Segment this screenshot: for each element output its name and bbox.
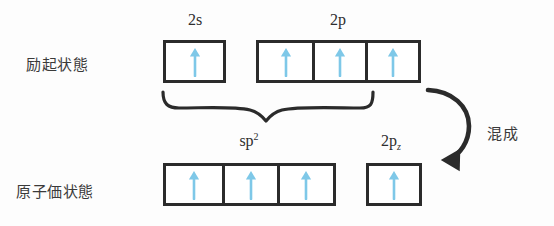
orbital-label-sp2-base: sp [239, 132, 253, 149]
up-arrow-icon [188, 47, 201, 77]
orbital-label-2pz-base: 2p [381, 132, 397, 149]
orbital-box-sp2-1[interactable] [166, 166, 222, 203]
orbital-box-2p-2[interactable] [312, 43, 365, 80]
orbital-label-2pz-subscript: z [397, 141, 401, 152]
orbital-box-group-2s [163, 40, 226, 83]
curved-arrow-icon [428, 90, 469, 160]
orbital-box-2pz-1[interactable] [369, 166, 419, 203]
hybridization-diagram: 励起状態 原子価状態 混成 2s 2p sp2 2pz [0, 0, 554, 226]
annotation-hybridization: 混成 [487, 122, 518, 143]
orbital-label-2pz: 2pz [370, 132, 412, 150]
up-arrow-icon [388, 170, 401, 200]
up-arrow-icon [387, 47, 400, 77]
up-arrow-icon [334, 47, 347, 77]
curly-brace-icon [163, 92, 373, 121]
orbital-box-group-sp2 [163, 163, 336, 206]
orbital-label-2s: 2s [178, 11, 212, 29]
orbital-box-2p-3[interactable] [365, 43, 418, 80]
orbital-box-group-2p [256, 40, 421, 83]
orbital-box-group-2pz [366, 163, 422, 206]
curved-arrow-head [440, 143, 469, 171]
orbital-box-2s-1[interactable] [166, 43, 223, 80]
up-arrow-icon [279, 47, 292, 77]
up-arrow-icon [187, 170, 200, 200]
up-arrow-icon [300, 170, 313, 200]
orbital-box-2p-1[interactable] [259, 43, 312, 80]
orbital-label-sp2-superscript: 2 [254, 131, 259, 142]
row-label-excited-state: 励起状態 [26, 53, 88, 74]
orbital-box-sp2-3[interactable] [277, 166, 333, 203]
up-arrow-icon [244, 170, 257, 200]
orbital-box-sp2-2[interactable] [222, 166, 278, 203]
orbital-label-sp2: sp2 [228, 132, 270, 150]
orbital-label-2p: 2p [320, 11, 356, 29]
row-label-valence-state: 原子価状態 [16, 180, 94, 201]
